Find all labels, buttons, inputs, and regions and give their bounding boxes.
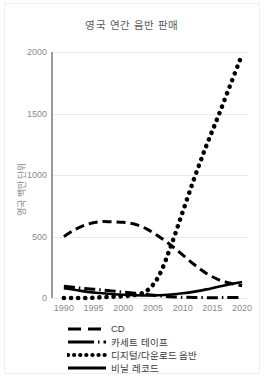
y-tick-label: 1000 <box>27 170 47 180</box>
gridline <box>52 298 248 299</box>
legend-key-dotted-icon <box>67 349 107 361</box>
x-tick-label: 2010 <box>173 303 193 313</box>
x-tick-label: 1990 <box>54 303 74 313</box>
x-tick-label: 2005 <box>143 303 163 313</box>
legend-key-solid-icon <box>67 362 107 374</box>
plot-area: 0500100015002000 19901995200020052010201… <box>52 52 248 298</box>
x-tick-label: 1995 <box>84 303 104 313</box>
legend-label: CD <box>111 323 125 334</box>
legend-item[interactable]: 카세트 테이프 <box>5 335 259 348</box>
legend-key-dashed-icon <box>67 323 107 335</box>
legend-label: 카세트 테이프 <box>111 335 168 349</box>
legend-item[interactable]: CD <box>5 322 259 335</box>
chart-title: 영국 연간 음반 판매 <box>5 17 259 32</box>
x-tick-label: 2015 <box>202 303 222 313</box>
legend-label: 비닐 레코드 <box>111 361 159 375</box>
y-axis-label: 영국 백만 단위 <box>15 162 28 215</box>
y-tick-label: 0 <box>42 293 47 303</box>
legend-key-dash-dot-icon <box>67 336 107 348</box>
series-lines <box>52 52 248 298</box>
x-tick-label: 2000 <box>113 303 133 313</box>
chart-card: 영국 연간 음반 판매 영국 백만 단위 0500100015002000 19… <box>4 3 260 374</box>
legend-label: 디지털/다운로드 음반 <box>111 348 197 362</box>
legend-item[interactable]: 비닐 레코드 <box>5 361 259 374</box>
series-line <box>64 222 242 286</box>
x-tick-label: 2020 <box>232 303 252 313</box>
chart-legend: CD카세트 테이프디지털/다운로드 음반비닐 레코드 <box>5 322 259 374</box>
series-line <box>64 54 242 298</box>
y-tick-label: 500 <box>32 232 47 242</box>
y-tick-label: 2000 <box>27 47 47 57</box>
legend-item[interactable]: 디지털/다운로드 음반 <box>5 348 259 361</box>
y-tick-label: 1500 <box>27 109 47 119</box>
